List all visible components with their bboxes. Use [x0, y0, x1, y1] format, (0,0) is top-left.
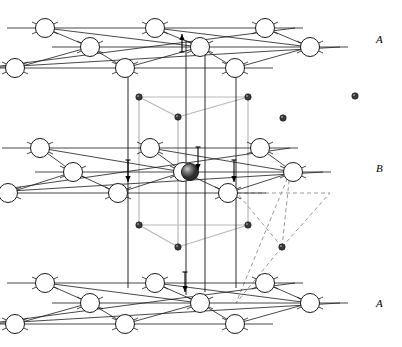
interstitial-isolated-0-highlight	[281, 116, 283, 118]
layer-a-top-atom	[116, 59, 135, 78]
layer-b-middle-atom	[284, 163, 303, 182]
layer-b-middle-atom	[64, 163, 83, 182]
layer-a-bottom-oblique	[235, 303, 310, 324]
interstitial-upper-0-highlight	[137, 95, 139, 97]
interstitial-upper-0	[136, 94, 142, 100]
layer-a-top-atom	[6, 59, 25, 78]
interstitial-upper-1	[245, 94, 251, 100]
layer-b-middle-atom	[0, 184, 18, 203]
interstitial-lower-1	[245, 222, 251, 228]
layer-a-top-atom	[256, 19, 275, 38]
interstitial-lower-2	[175, 244, 181, 250]
layer-b-middle-atom	[251, 139, 270, 158]
layer-label-b-middle: B	[376, 162, 383, 174]
tetra-edge-0	[237, 193, 282, 247]
layer-b-middle-atom	[141, 139, 160, 158]
layer-b-middle-atom	[31, 139, 50, 158]
tetra-edge-1	[282, 172, 290, 247]
layer-a-bottom-atom	[36, 274, 55, 293]
prism-top-edge	[178, 97, 248, 117]
layer-a-bottom-diagonal	[0, 303, 340, 324]
interstitial-lower-0	[136, 222, 142, 228]
tetra-edge-2	[282, 193, 330, 247]
layer-b-middle-oblique	[40, 148, 183, 172]
tetra-center-atom-0	[279, 244, 285, 250]
layer-label-a-bottom: A	[376, 297, 383, 309]
interstitial-isolated-1-highlight	[353, 94, 355, 96]
layer-b-middle-oblique	[150, 148, 293, 172]
layer-a-bottom-atom	[6, 315, 25, 334]
layer-a-bottom-atom	[191, 294, 210, 313]
layer-a-top-atom	[191, 38, 210, 57]
interstitial-isolated-0	[280, 115, 286, 121]
layer-label-a-top: A	[376, 33, 383, 45]
layer-b-middle-oblique	[228, 172, 293, 193]
prism-bottom-edge	[139, 225, 178, 247]
layer-a-top-diagonal	[0, 47, 340, 68]
layer-a-top-atom	[81, 38, 100, 57]
layer-a-top-oblique	[235, 47, 310, 68]
layer-a-top-atom	[146, 19, 165, 38]
structure-canvas	[0, 0, 402, 347]
interstitial-isolated-1	[352, 93, 358, 99]
arrow-down-bottom-head	[182, 286, 187, 292]
layer-b-middle-atom	[219, 184, 238, 203]
interstitial-upper-2-highlight	[176, 115, 178, 117]
interstitial-lower-1-highlight	[246, 223, 248, 225]
prism-bottom-edge	[178, 225, 248, 247]
layer-b-middle-atom	[109, 184, 128, 203]
layer-a-top-atom	[226, 59, 245, 78]
crystal-structure-figure: A B A	[0, 0, 402, 347]
layer-a-top-atom	[36, 19, 55, 38]
interstitial-upper-1-highlight	[246, 95, 248, 97]
layer-a-bottom-atom	[146, 274, 165, 293]
layer-a-top-atom	[301, 38, 320, 57]
layer-a-bottom-atom	[301, 294, 320, 313]
layer-a-bottom-atom	[116, 315, 135, 334]
layer-a-bottom-atom	[81, 294, 100, 313]
layer-a-bottom-oblique	[15, 303, 90, 324]
layer-a-bottom-atom	[226, 315, 245, 334]
interstitial-lower-2-highlight	[176, 245, 178, 247]
tetra-center-atom-0-highlight	[280, 245, 282, 247]
layer-a-top-oblique	[15, 47, 90, 68]
arrow-up-top-head	[179, 34, 184, 40]
interstitial-lower-0-highlight	[137, 223, 139, 225]
layer-a-bottom-atom	[256, 274, 275, 293]
interstitial-upper-2	[175, 114, 181, 120]
arrow-down-left-head	[125, 176, 130, 182]
layer-b-middle-oblique	[8, 172, 73, 193]
prism-top-edge	[139, 97, 178, 117]
